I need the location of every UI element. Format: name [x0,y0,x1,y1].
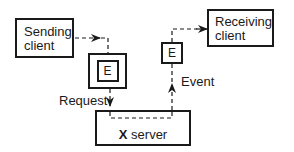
request-packet-outer: E [88,53,127,89]
event-packet-label: E [168,46,176,60]
event-label: Event [181,75,214,89]
receiving-client-line2: client [215,29,272,43]
request-label: Request [59,94,107,108]
request-packet-label: E [103,64,111,78]
sending-client-node: Sending client [15,18,74,58]
sending-client-line2: client [24,39,72,53]
event-packet: E [161,42,183,64]
request-packet-inner: E [97,60,119,82]
x-server-node: X server [95,110,191,146]
x-server-label: X server [97,128,189,142]
receiving-client-line1: Receiving [215,15,272,29]
x-server-label-rest: server [127,127,167,142]
receiving-client-node: Receiving client [207,9,274,47]
sending-client-line1: Sending [24,25,72,39]
